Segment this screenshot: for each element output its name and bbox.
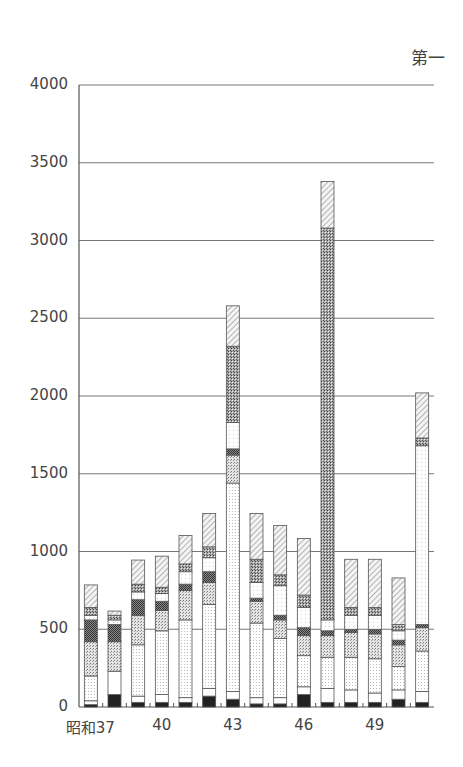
bar-segment [179, 620, 192, 698]
bar-segment [226, 699, 239, 707]
bar-segment [274, 620, 287, 639]
bar-segment [392, 690, 405, 699]
bar-segment [345, 615, 358, 629]
bar-segment [416, 393, 429, 438]
bar-segment [203, 583, 216, 605]
y-tick-label: 4000 [0, 75, 68, 93]
bar-segment [274, 639, 287, 698]
bar-segment [345, 690, 358, 702]
bar-41 [179, 535, 192, 707]
bar-segment [250, 598, 263, 601]
bar-segment [84, 676, 97, 701]
bar-segment [108, 620, 121, 625]
bar-44 [250, 514, 263, 707]
y-tick-label: 2000 [0, 386, 68, 404]
bar-segment [203, 547, 216, 558]
bar-segment [274, 586, 287, 616]
bar-segment [203, 558, 216, 572]
bar-昭和37 [84, 585, 97, 707]
bar-segment [132, 560, 145, 584]
bar-segment [132, 584, 145, 592]
y-tick-label: 3000 [0, 231, 68, 249]
bar-segment [416, 702, 429, 707]
bar-segment [368, 559, 381, 607]
bar-segment [226, 449, 239, 455]
bar-segment [274, 704, 287, 707]
bar-45 [274, 526, 287, 707]
bar-segment [274, 526, 287, 575]
x-tick-label: 昭和37 [66, 716, 115, 737]
bar-segment [297, 656, 310, 687]
bar-segment [274, 575, 287, 586]
bar-segment [297, 635, 310, 655]
bar-segment [250, 698, 263, 704]
bar-47 [321, 181, 334, 707]
bar-segment [392, 645, 405, 667]
bar-segment [392, 625, 405, 631]
bar-39 [132, 560, 145, 707]
bar-segment [108, 671, 121, 694]
y-tick-label: 0 [0, 697, 68, 715]
x-tick-label: 49 [365, 716, 384, 734]
bar-segment [345, 632, 358, 657]
bar-segment [226, 422, 239, 448]
bar-segment [84, 620, 97, 642]
bar-49 [368, 559, 381, 707]
bar-segment [203, 688, 216, 696]
y-tick-label: 1000 [0, 542, 68, 560]
bar-segment [84, 607, 97, 615]
bar-segment [179, 702, 192, 707]
x-tick-label: 43 [223, 716, 242, 734]
bar-segment [368, 615, 381, 629]
bar-segment [108, 695, 121, 707]
bar-segment [250, 601, 263, 623]
bar-segment [416, 625, 429, 628]
bar-segment [250, 583, 263, 599]
y-tick-label: 1500 [0, 464, 68, 482]
bar-segment [108, 625, 121, 642]
bar-segment [179, 698, 192, 703]
bar-segment [132, 696, 145, 702]
bar-50 [392, 578, 405, 707]
bar-segment [250, 514, 263, 560]
bar-38 [108, 611, 121, 707]
bar-segment [250, 559, 263, 582]
bar-segment [155, 587, 168, 593]
bar-segment [392, 631, 405, 640]
bar-segment [392, 667, 405, 690]
bar-segment [345, 629, 358, 632]
x-tick-label: 40 [152, 716, 171, 734]
bar-segment [345, 702, 358, 707]
bar-segment [297, 695, 310, 707]
bar-segment [416, 691, 429, 702]
bar-segment [84, 642, 97, 676]
bar-segment [392, 578, 405, 625]
bar-segment [226, 346, 239, 422]
bar-segment [179, 572, 192, 584]
bar-segment [368, 634, 381, 659]
bar-segment [203, 514, 216, 547]
bar-segment [203, 604, 216, 688]
bar-segment [155, 702, 168, 707]
bar-segment [108, 642, 121, 672]
bar-segment [392, 699, 405, 707]
bar-segment [226, 483, 239, 691]
bar-segment [345, 657, 358, 690]
bar-segment [250, 704, 263, 707]
bar-segment [84, 585, 97, 608]
bar-segment [108, 615, 121, 620]
bar-segment [321, 635, 334, 657]
bar-segment [368, 702, 381, 707]
bar-segment [84, 701, 97, 705]
bar-segment [345, 607, 358, 615]
bar-segment [368, 629, 381, 634]
bar-segment [132, 600, 145, 616]
bar-segment [321, 657, 334, 688]
bar-42 [203, 514, 216, 707]
bar-segment [321, 620, 334, 631]
bar-segment [274, 698, 287, 704]
bar-segment [155, 593, 168, 601]
bar-segment [297, 539, 310, 595]
bar-segment [179, 584, 192, 590]
y-tick-label: 2500 [0, 308, 68, 326]
